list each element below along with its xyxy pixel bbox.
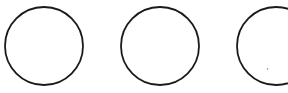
- circle-1: [5, 7, 83, 85]
- circles-diagram: [0, 0, 288, 93]
- circle-3: [237, 7, 288, 85]
- circle-2: [121, 7, 199, 85]
